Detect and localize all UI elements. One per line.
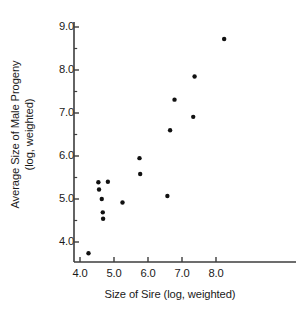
- data-point-group: [86, 37, 226, 256]
- data-point: [106, 180, 110, 184]
- data-point: [96, 180, 100, 184]
- data-point: [101, 210, 105, 214]
- data-point: [165, 194, 169, 198]
- plot-area: [0, 0, 304, 319]
- scatter-plot-figure: Average Size of Male Progeny (log, weigh…: [0, 0, 304, 319]
- data-point: [97, 187, 101, 191]
- tick-marks: [74, 27, 216, 262]
- axis-lines: [74, 22, 296, 262]
- data-point: [100, 197, 104, 201]
- data-point: [120, 200, 124, 204]
- data-point: [172, 97, 176, 101]
- data-point: [191, 115, 195, 119]
- data-point: [101, 217, 105, 221]
- data-point: [137, 156, 141, 160]
- data-point: [168, 128, 172, 132]
- data-point: [138, 172, 142, 176]
- data-point: [86, 251, 90, 255]
- x-axis-title: Size of Sire (log, weighted): [44, 288, 296, 300]
- data-point: [222, 37, 226, 41]
- data-point: [192, 74, 196, 78]
